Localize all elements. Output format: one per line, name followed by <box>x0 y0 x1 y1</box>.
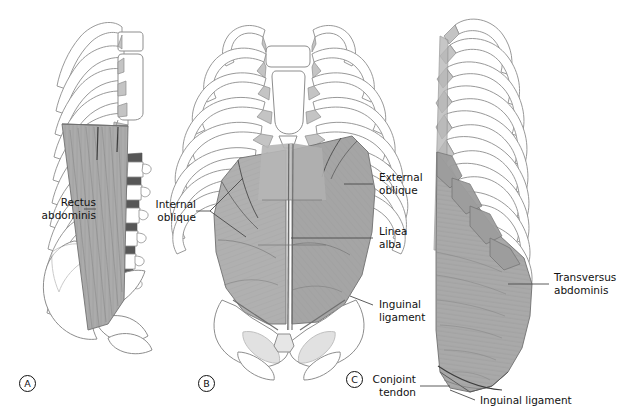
label-external-oblique-line1: External <box>379 171 423 183</box>
label-internal-oblique-line2: oblique <box>157 211 196 223</box>
panel-b-sternum <box>266 46 310 148</box>
panel-a-illustration <box>43 22 152 353</box>
label-inguinal-ligament-b: Inguinalligament <box>379 298 449 324</box>
label-internal-oblique: Internaloblique <box>130 198 196 224</box>
label-transversus-abdominis: Transversusabdominis <box>554 271 618 297</box>
label-internal-oblique-line1: Internal <box>156 198 196 210</box>
panel-marker-c: C <box>346 371 363 388</box>
label-linea-alba-line1: Linea <box>379 225 407 237</box>
label-transversus-abdominis-line2: abdominis <box>554 284 608 296</box>
panel-b-rectus-sheath <box>258 143 326 200</box>
label-conjoint-tendon-line2: tendon <box>379 386 416 398</box>
label-external-oblique: Externaloblique <box>379 171 449 197</box>
panel-marker-a: A <box>19 375 36 392</box>
label-rectus-abdominis-line1: Rectus <box>61 196 96 208</box>
figure-canvas: Rectusabdominis Internaloblique External… <box>0 0 618 417</box>
label-linea-alba: Lineaalba <box>379 225 439 251</box>
label-rectus-abdominis: Rectusabdominis <box>16 196 96 222</box>
label-transversus-abdominis-line1: Transversus <box>554 271 616 283</box>
label-external-oblique-line2: oblique <box>379 184 418 196</box>
label-inguinal-ligament-c: Inguinal ligament <box>480 394 600 407</box>
label-inguinal-ligament-c-line1: Inguinal ligament <box>480 394 572 406</box>
panel-c-illustration <box>434 19 532 392</box>
label-linea-alba-line2: alba <box>379 238 401 250</box>
label-inguinal-ligament-b-line2: ligament <box>379 311 425 323</box>
label-conjoint-tendon-line1: Conjoint <box>373 373 416 385</box>
panel-b-illustration <box>170 25 408 380</box>
label-inguinal-ligament-b-line1: Inguinal <box>379 298 421 310</box>
panel-marker-b: B <box>198 375 215 392</box>
label-rectus-abdominis-line2: abdominis <box>42 209 96 221</box>
